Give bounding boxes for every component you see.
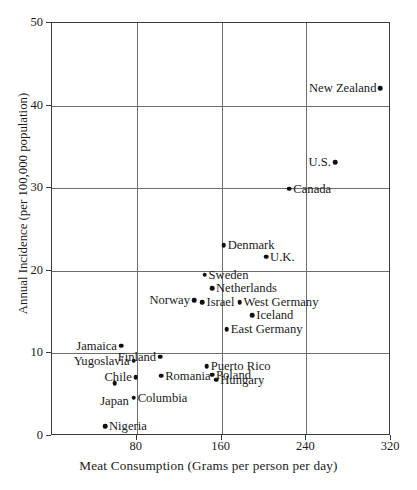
data-point-label: Japan (100, 395, 129, 408)
x-tick-label: 80 (130, 440, 143, 453)
data-point (225, 327, 230, 332)
data-point-label: U.K. (270, 250, 295, 263)
data-point (192, 298, 197, 303)
y-gridline (52, 188, 389, 189)
data-point (333, 160, 338, 165)
y-tick-mark (46, 187, 51, 188)
data-point-label: Sweden (209, 268, 249, 281)
data-point (237, 300, 242, 305)
data-point (250, 313, 255, 318)
data-point-label: Israel (206, 296, 234, 309)
data-point-label: Jamaica (76, 339, 117, 352)
y-tick-mark (46, 105, 51, 106)
data-point-label: U.S. (309, 156, 331, 169)
y-tick-mark (46, 352, 51, 353)
x-gridline (137, 23, 138, 434)
y-tick-label: 40 (0, 99, 43, 111)
data-point (133, 375, 138, 380)
y-tick-label: 50 (0, 16, 43, 28)
data-point (159, 373, 164, 378)
y-tick-label: 10 (0, 346, 43, 358)
data-point-label: Chile (104, 371, 131, 384)
data-point-label: Hungary (220, 373, 264, 386)
data-point (378, 86, 383, 91)
data-point (210, 286, 215, 291)
data-point-label: Nigeria (109, 419, 147, 432)
data-point (112, 381, 117, 386)
x-tick-label: 160 (211, 440, 230, 453)
x-axis-title: Meat Consumption (Grams per person per d… (0, 458, 417, 474)
data-point (200, 300, 205, 305)
data-point-label: West Germany (244, 296, 319, 309)
y-gridline (52, 106, 389, 107)
y-tick-mark (46, 22, 51, 23)
data-point-label: Norway (149, 294, 190, 307)
data-point-label: Netherlands (216, 281, 277, 294)
y-tick-label: 0 (0, 429, 43, 441)
data-point (103, 424, 108, 429)
data-point-label: Finland (118, 350, 156, 363)
data-point (158, 354, 163, 359)
data-point (214, 377, 219, 382)
data-point-label: Iceland (256, 309, 293, 322)
data-point-label: East Germany (231, 323, 303, 336)
data-point (119, 343, 124, 348)
data-point (221, 243, 226, 248)
y-tick-mark (46, 435, 51, 436)
data-point-label: New Zealand (309, 82, 376, 95)
data-point-label: Columbia (138, 391, 188, 404)
data-point (131, 396, 136, 401)
data-point (287, 187, 292, 192)
data-point-label: Canada (293, 182, 331, 195)
x-tick-label: 240 (296, 440, 315, 453)
y-tick-label: 20 (0, 264, 43, 276)
data-point-label: Romania (165, 369, 210, 382)
data-point (202, 272, 207, 277)
x-gridline (306, 23, 307, 434)
y-tick-label: 30 (0, 181, 43, 193)
x-tick-label: 320 (381, 440, 400, 453)
data-point-label: Denmark (228, 239, 275, 252)
scatter-plot-figure: Annual Incidence (per 100,000 population… (0, 0, 417, 490)
data-point (264, 254, 269, 259)
y-tick-mark (46, 270, 51, 271)
